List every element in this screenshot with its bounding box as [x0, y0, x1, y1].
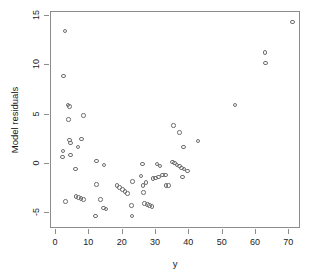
x-axis-tick-mark: [155, 229, 156, 234]
y-axis-tick-mark: [44, 114, 49, 115]
x-axis-label: y: [173, 258, 178, 269]
x-axis-tick-label: 10: [83, 237, 93, 247]
y-axis-label: Model residuals: [9, 87, 20, 154]
x-axis-tick-mark: [122, 229, 123, 234]
x-axis-tick-label: 0: [52, 237, 57, 247]
y-axis-tick-mark: [44, 64, 49, 65]
y-axis-tick-label: -5: [31, 208, 41, 216]
x-axis-tick-label: 20: [117, 237, 127, 247]
x-axis-tick-mark: [88, 229, 89, 234]
y-axis-tick-label: 0: [31, 160, 41, 165]
x-axis-tick-mark: [255, 229, 256, 234]
y-axis-tick-mark: [44, 163, 49, 164]
y-axis-tick-label: 10: [31, 59, 41, 69]
x-axis-tick-label: 50: [217, 237, 227, 247]
x-axis-tick-mark: [288, 229, 289, 234]
y-axis-tick-label: 5: [31, 111, 41, 116]
y-axis-tick-label: 15: [31, 10, 41, 20]
x-axis-tick-label: 40: [183, 237, 193, 247]
plot-frame: [50, 11, 300, 228]
y-axis-tick-mark: [44, 15, 49, 16]
x-axis-tick-mark: [188, 229, 189, 234]
x-axis-tick-label: 70: [283, 237, 293, 247]
x-axis-tick-mark: [55, 229, 56, 234]
x-axis-tick-label: 60: [250, 237, 260, 247]
x-axis-tick-label: 30: [150, 237, 160, 247]
scatter-plot-figure: 010203040506070-5051015 y Model residual…: [0, 0, 311, 280]
x-axis-tick-mark: [222, 229, 223, 234]
y-axis-tick-mark: [44, 212, 49, 213]
